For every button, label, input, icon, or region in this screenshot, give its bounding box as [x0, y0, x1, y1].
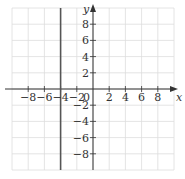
x-tick-label: 6	[138, 91, 145, 104]
y-tick-label: 4	[82, 51, 89, 64]
x-tick-label: −8	[20, 91, 36, 104]
y-tick-label: 6	[82, 34, 89, 47]
y-tick-label: −6	[73, 132, 89, 145]
coordinate-plane: −8−6−4−224688642−2−4−6−8 x y 0	[0, 0, 185, 179]
x-tick-label: −4	[52, 91, 68, 104]
y-tick-label: 8	[82, 18, 89, 31]
y-tick-label: 2	[82, 67, 89, 80]
y-axis-label: y	[82, 3, 90, 16]
x-tick-label: 4	[122, 91, 129, 104]
y-tick-label: −4	[73, 115, 89, 128]
x-tick-label: −6	[36, 91, 52, 104]
x-axis-label: x	[176, 91, 183, 104]
x-tick-label: 2	[106, 91, 113, 104]
origin-label: 0	[83, 91, 90, 104]
x-tick-label: 8	[154, 91, 161, 104]
y-tick-label: −8	[73, 148, 89, 161]
axes	[5, 4, 178, 170]
